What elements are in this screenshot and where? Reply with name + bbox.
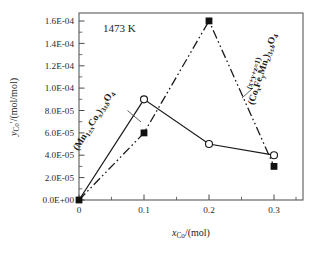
y-tick-label-6: 1.2E-04 (45, 61, 75, 71)
data-point-c-3 (271, 152, 278, 159)
x-axis-title: xCo/(mol) (171, 227, 210, 240)
y-tick-label-4: 8.0E-05 (45, 106, 75, 116)
y-tick-label-0: 0.0E+00 (43, 195, 75, 205)
y-tick-label-1: 2.0E-05 (45, 173, 75, 183)
y-tick-label-2: 4.0E-05 (45, 150, 75, 160)
data-point-sq-1 (141, 130, 148, 137)
y-tick-label-3: 6.0E-05 (45, 128, 75, 138)
data-point-sq-2 (206, 18, 213, 25)
y-axis-title: yCo'/(mol/mol) (8, 78, 21, 137)
x-tick-label-3: 0.3 (268, 205, 280, 215)
x-tick-label-2: 0.2 (203, 205, 215, 215)
data-point-c-1 (141, 96, 148, 103)
y-tick-label-7: 1.4E-04 (45, 39, 75, 49)
data-point-sq-0 (76, 197, 83, 204)
chart-canvas: 0.0E+00 2.0E-05 4.0E-05 6.0E-05 8.0E-05 … (0, 0, 312, 255)
data-point-c-2 (206, 141, 213, 148)
x-tick-label-1: 0.1 (138, 205, 150, 215)
y-tick-label-5: 1.0E-04 (45, 83, 75, 93)
x-tick-label-0: 0 (77, 205, 82, 215)
temperature-annotation: 1473 K (103, 22, 136, 34)
y-tick-label-8: 1.6E-04 (45, 16, 75, 26)
chart-figure: 0.0E+00 2.0E-05 4.0E-05 6.0E-05 8.0E-05 … (0, 0, 312, 255)
data-point-sq-3 (271, 163, 278, 170)
